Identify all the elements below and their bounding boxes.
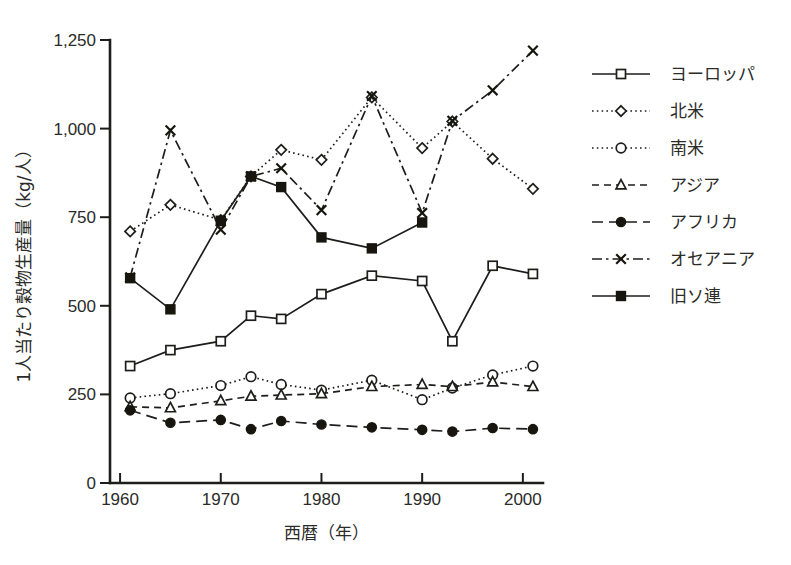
legend-label: オセアニア xyxy=(670,249,755,269)
data-point-marker xyxy=(125,226,135,236)
data-point-marker xyxy=(616,143,626,153)
series-line xyxy=(130,51,533,278)
series-line xyxy=(130,366,533,400)
x-tick-label: 1960 xyxy=(101,490,139,509)
data-point-marker xyxy=(317,290,326,299)
y-tick-label: 0 xyxy=(87,474,96,493)
legend-label: 北米 xyxy=(670,101,704,121)
data-point-marker xyxy=(277,183,286,192)
x-tick-label: 2000 xyxy=(504,490,542,509)
series-line xyxy=(130,410,533,431)
data-point-marker xyxy=(246,425,255,434)
data-point-marker xyxy=(418,425,427,434)
y-axis-ticks: 02505007501,0001,250 xyxy=(53,31,110,493)
x-tick-label: 1980 xyxy=(303,490,341,509)
data-point-marker xyxy=(528,184,538,194)
legend-item-5[interactable]: オセアニア xyxy=(592,249,755,269)
data-point-marker xyxy=(528,361,538,371)
data-point-marker xyxy=(166,418,175,427)
x-tick-label: 1970 xyxy=(202,490,240,509)
data-point-marker xyxy=(528,269,537,278)
data-point-marker xyxy=(246,311,255,320)
data-point-marker xyxy=(617,292,626,301)
series-4 xyxy=(126,406,538,436)
data-point-marker xyxy=(417,395,427,405)
data-point-marker xyxy=(417,143,427,153)
legend-label: 旧ソ連 xyxy=(670,286,721,306)
data-point-marker xyxy=(448,427,457,436)
data-point-marker xyxy=(367,423,376,432)
y-tick-label: 750 xyxy=(68,208,96,227)
series-2 xyxy=(125,361,537,404)
data-point-marker xyxy=(126,406,135,415)
legend-item-3[interactable]: アジア xyxy=(592,175,720,195)
legend-label: アフリカ xyxy=(670,212,738,232)
data-point-marker xyxy=(367,271,376,280)
data-point-marker xyxy=(617,70,626,79)
data-point-marker xyxy=(216,216,225,225)
x-tick-label: 1990 xyxy=(403,490,441,509)
series-line xyxy=(130,382,533,408)
legend-item-1[interactable]: 北米 xyxy=(592,101,704,121)
chart-figure: 02505007501,0001,250 1960197019801990200… xyxy=(0,0,791,565)
data-point-marker xyxy=(216,381,226,391)
data-point-marker xyxy=(276,390,286,399)
legend-label: ヨーロッパ xyxy=(670,64,755,84)
series-line xyxy=(130,176,422,309)
data-point-marker xyxy=(317,233,326,242)
data-point-marker xyxy=(216,395,226,404)
legend-label: アジア xyxy=(670,175,720,195)
series-5 xyxy=(125,46,537,282)
data-point-marker xyxy=(488,423,497,432)
data-point-marker xyxy=(418,276,427,285)
data-point-marker xyxy=(126,274,135,283)
data-point-marker xyxy=(246,172,255,181)
data-point-marker xyxy=(246,372,256,382)
data-point-marker xyxy=(166,389,176,399)
legend-item-2[interactable]: 南米 xyxy=(592,138,704,158)
data-point-marker xyxy=(488,261,497,270)
data-point-marker xyxy=(277,314,286,323)
legend-item-6[interactable]: 旧ソ連 xyxy=(592,286,721,306)
data-point-marker xyxy=(216,337,225,346)
series-line xyxy=(130,97,533,231)
data-point-marker xyxy=(317,420,326,429)
data-point-marker xyxy=(166,346,175,355)
data-point-marker xyxy=(277,416,286,425)
data-point-marker xyxy=(417,379,427,388)
series-6 xyxy=(126,172,427,314)
y-axis-title: 1人当たり穀物生産量（kg/人） xyxy=(14,141,34,382)
data-point-marker xyxy=(216,415,225,424)
x-axis-title: 西暦（年） xyxy=(284,523,369,543)
series-3 xyxy=(125,377,538,412)
x-axis-ticks: 19601970198019902000 xyxy=(101,473,542,509)
y-tick-label: 1,250 xyxy=(53,31,96,50)
data-point-marker xyxy=(487,154,497,164)
y-tick-label: 500 xyxy=(68,297,96,316)
data-point-marker xyxy=(448,337,457,346)
data-point-marker xyxy=(165,200,175,210)
data-point-marker xyxy=(616,217,625,226)
data-point-marker xyxy=(166,305,175,314)
grain-production-line-chart: 02505007501,0001,250 1960197019801990200… xyxy=(0,0,791,565)
data-point-marker xyxy=(616,106,626,116)
series-line xyxy=(130,266,533,366)
legend-item-0[interactable]: ヨーロッパ xyxy=(592,64,755,84)
data-point-marker xyxy=(367,244,376,253)
y-tick-label: 1,000 xyxy=(53,120,96,139)
legend-item-4[interactable]: アフリカ xyxy=(592,212,738,232)
chart-legend: ヨーロッパ北米南米アジアアフリカオセアニア旧ソ連 xyxy=(592,64,755,306)
data-point-marker xyxy=(418,218,427,227)
data-point-marker xyxy=(126,362,135,371)
data-point-marker xyxy=(276,380,286,390)
legend-label: 南米 xyxy=(670,138,704,158)
data-point-marker xyxy=(276,145,286,155)
series-0 xyxy=(126,261,538,370)
data-point-marker xyxy=(528,425,537,434)
y-tick-label: 250 xyxy=(68,385,96,404)
series-layer xyxy=(125,46,538,436)
